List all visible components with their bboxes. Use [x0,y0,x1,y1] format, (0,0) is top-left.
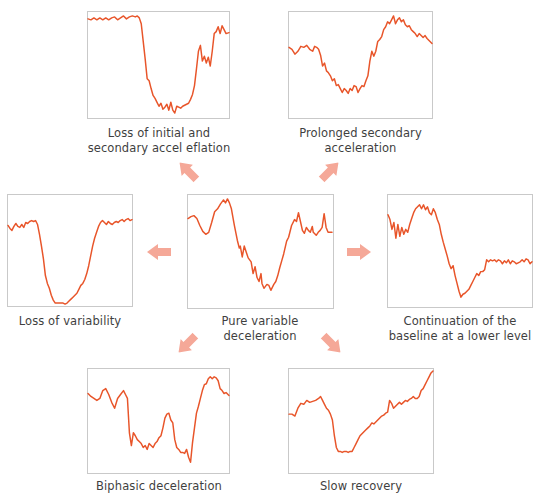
caption-line-1: Continuation of the [378,314,542,329]
arrow-left-icon [147,244,171,260]
arrow-right-icon [347,244,371,260]
arrow-up-left-icon [174,157,202,185]
trace-loss-of-initial-secondary-acceleration [88,12,229,118]
trace-loss-of-variability [8,195,132,306]
caption-line-1: Prolonged secondary [278,126,443,141]
panel-slow-recovery [288,368,434,474]
caption-line-2: baseline at a lower level [378,329,542,344]
caption-loss-of-initial-secondary-acceleration: Loss of initial and secondary accel efla… [78,126,240,156]
caption-line-2: deceleration [190,329,330,344]
caption-biphasic-deceleration: Biphasic deceleration [78,479,240,494]
caption-line-2: secondary accel eflation [78,141,240,156]
caption-pure-variable-deceleration: Pure variable deceleration [190,314,330,344]
trace-pure-variable-deceleration [188,195,333,308]
caption-line-2: acceleration [278,141,443,156]
trace-slow-recovery [289,369,433,473]
caption-continuation-baseline-lower-level: Continuation of the baseline at a lower … [378,314,542,344]
panel-biphasic-deceleration [87,368,230,474]
caption-loss-of-variability: Loss of variability [0,314,140,329]
trace-continuation-baseline-lower-level [388,195,532,307]
caption-slow-recovery: Slow recovery [285,479,437,494]
caption-line-1: Loss of initial and [78,126,240,141]
panel-prolonged-secondary-acceleration [288,11,433,119]
trace-prolonged-secondary-acceleration [289,12,432,118]
panel-loss-of-initial-secondary-acceleration [87,11,230,119]
caption-line-1: Pure variable [190,314,330,329]
caption-line-1: Biphasic deceleration [78,479,240,494]
trace-biphasic-deceleration [88,369,229,473]
panel-loss-of-variability [7,194,133,307]
panel-pure-variable-deceleration [187,194,334,309]
panel-continuation-baseline-lower-level [387,194,533,308]
arrow-up-right-icon [316,157,344,185]
caption-prolonged-secondary-acceleration: Prolonged secondary acceleration [278,126,443,156]
caption-line-1: Slow recovery [285,479,437,494]
caption-line-1: Loss of variability [0,314,140,329]
